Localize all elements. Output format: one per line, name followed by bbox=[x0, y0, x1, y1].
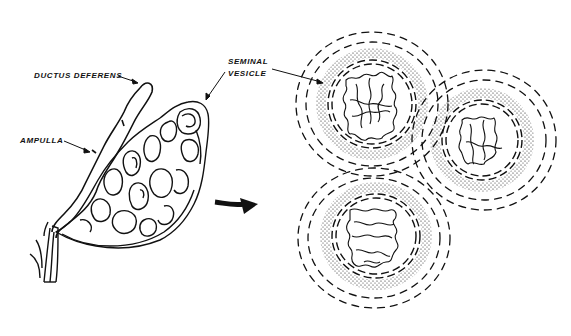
anatomy-drawing bbox=[0, 0, 571, 336]
label-seminal-vesicle-line2: VESICLE bbox=[228, 68, 266, 80]
diagram-figure: DUCTUS DEFERENS AMPULLA SEMINAL VESICLE bbox=[0, 0, 571, 336]
label-ampulla: AMPULLA bbox=[20, 135, 63, 147]
ductus-deferens-drawing bbox=[52, 83, 152, 238]
cross-section-drawing bbox=[296, 32, 556, 308]
label-ductus-deferens: DUCTUS DEFERENS bbox=[34, 70, 122, 82]
ejaculatory-duct-drawing bbox=[30, 222, 58, 282]
label-seminal-vesicle-line1: SEMINAL bbox=[228, 56, 268, 68]
curved-arrow-icon bbox=[215, 198, 258, 214]
